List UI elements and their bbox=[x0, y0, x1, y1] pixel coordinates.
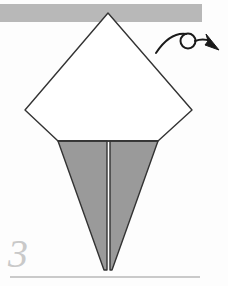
top-edge-band bbox=[0, 4, 202, 22]
turn-over-arrow-loop bbox=[181, 34, 196, 49]
origami-step-panel: 3 bbox=[0, 0, 228, 286]
gray-triangle-right-half bbox=[110, 141, 158, 270]
turn-over-arrow-head bbox=[205, 34, 219, 50]
white-kite-diamond bbox=[25, 13, 192, 141]
gray-triangle-left-half bbox=[58, 141, 107, 270]
step-number: 3 bbox=[8, 232, 50, 276]
